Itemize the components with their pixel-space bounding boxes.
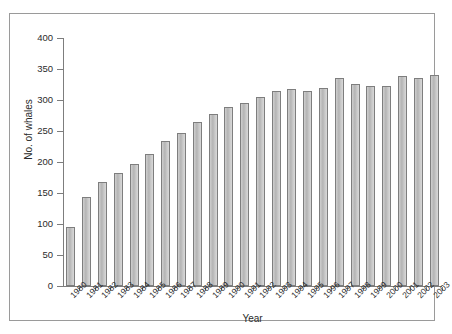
y-axis-tick-label: 400 bbox=[10, 33, 53, 42]
bar bbox=[398, 76, 407, 286]
y-axis-tick-label: 200 bbox=[10, 157, 53, 166]
bar bbox=[287, 89, 296, 286]
y-axis-tick-label: 100 bbox=[10, 219, 53, 228]
y-axis-tick-label: 350 bbox=[10, 64, 53, 73]
bar bbox=[114, 173, 123, 286]
bar bbox=[145, 154, 154, 286]
y-axis-tick-label: 250 bbox=[10, 126, 53, 135]
x-axis-title: Year bbox=[63, 313, 442, 324]
bar bbox=[240, 103, 249, 286]
bar bbox=[382, 86, 391, 286]
bar bbox=[272, 91, 281, 286]
bar bbox=[366, 86, 375, 286]
y-axis-tick-label: 0 bbox=[10, 281, 53, 290]
bar bbox=[351, 84, 360, 286]
bar bbox=[98, 182, 107, 286]
bar-series bbox=[63, 38, 442, 286]
bar bbox=[319, 88, 328, 286]
bar bbox=[177, 133, 186, 286]
bar bbox=[130, 164, 139, 286]
bar bbox=[430, 75, 439, 286]
bar bbox=[66, 227, 75, 286]
chart-frame: No. of whales 050100150200250300350400 1… bbox=[9, 13, 435, 321]
bar bbox=[256, 97, 265, 286]
y-axis-tick bbox=[57, 286, 63, 287]
bar bbox=[82, 197, 91, 286]
bar bbox=[193, 122, 202, 286]
bar bbox=[335, 78, 344, 286]
y-axis-tick-label: 150 bbox=[10, 188, 53, 197]
y-axis-tick-label: 300 bbox=[10, 95, 53, 104]
y-axis-tick-label: 50 bbox=[10, 250, 53, 259]
bar bbox=[209, 114, 218, 286]
bar bbox=[224, 107, 233, 286]
bar bbox=[414, 78, 423, 286]
bar bbox=[303, 91, 312, 286]
bar bbox=[161, 141, 170, 286]
